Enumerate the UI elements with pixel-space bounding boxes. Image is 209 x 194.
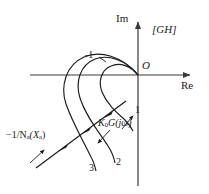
direction-arrow-1-icon	[58, 144, 68, 152]
critical-point-label: -1	[85, 50, 93, 60]
describing-function-open-paren: (X	[30, 129, 39, 140]
curve-label-1: 1	[135, 105, 140, 115]
direction-arrow-2-icon	[81, 127, 91, 135]
plot-canvas	[0, 0, 209, 194]
nyquist-family-label: K0G(jω)	[98, 118, 132, 129]
leader-line-to-describing-function	[30, 151, 43, 163]
real-axis-label: Re	[181, 80, 193, 91]
curve-label-3: 3	[89, 163, 94, 173]
nyquist-gain-symbol: K	[98, 117, 105, 128]
imaginary-axis-label: Im	[116, 13, 128, 24]
describing-function-label: −1/Na(Xa)	[6, 130, 45, 141]
describing-function-prefix: −1/N	[6, 129, 27, 140]
origin-label: O	[142, 60, 150, 71]
nyquist-curve-2	[78, 57, 138, 163]
describing-function-close-paren: )	[42, 129, 45, 140]
nyquist-curve-3	[64, 54, 138, 171]
nyquist-transfer-symbol: G(jω)	[108, 117, 132, 128]
curve-label-2: 2	[116, 157, 121, 167]
nyquist-plot-figure: Im Re [GH] O -1 1 2 3 K0G(jω) −1/Na(Xa)	[0, 0, 209, 194]
plane-label: [GH]	[152, 24, 176, 35]
